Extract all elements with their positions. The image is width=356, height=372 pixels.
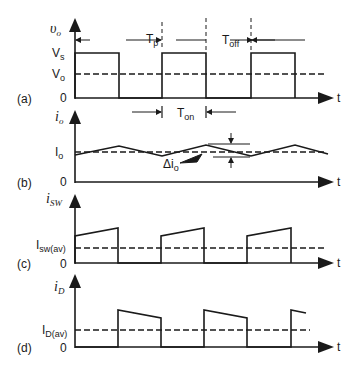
panel-d-zero-label: 0: [60, 342, 67, 354]
panel-d-tag: (d): [17, 342, 32, 354]
panel-b-axes: [69, 110, 334, 188]
panel-b-y-label: io: [55, 110, 63, 124]
panel-c-isw-av-label: Isw(av): [36, 239, 66, 251]
panel-b-tag: (b): [17, 177, 32, 189]
toff-label: Toff: [222, 34, 239, 46]
ripple-label: Δio: [163, 158, 179, 170]
panel-d-axes: [69, 274, 334, 353]
ton-label: Ton: [177, 107, 194, 119]
panel-d-id-av-label: ID(av): [42, 324, 67, 336]
panel-c-zero-label: 0: [60, 258, 67, 270]
panel-b-io-label: Io: [55, 146, 63, 158]
panel-b-zero-label: 0: [60, 176, 67, 188]
panel-a-vs-label: Vs: [52, 47, 65, 59]
panel-c-y-label: iSW: [46, 192, 62, 206]
panel-c-axes: [69, 194, 334, 269]
panel-a-tag: (a): [17, 93, 32, 105]
panel-a-zero-label: 0: [60, 92, 67, 104]
panel-a-voltage-pulses: [75, 53, 295, 98]
panel-c-switch-current: [75, 228, 291, 263]
panel-b-x-label: t: [337, 176, 340, 188]
panel-d-diode-current: [75, 310, 306, 347]
panel-a-y-label: υo: [50, 22, 61, 36]
panel-a-vo-label: Vo: [52, 68, 65, 80]
panel-a-x-label: t: [337, 92, 340, 104]
panel-c-x-label: t: [337, 257, 340, 269]
panel-d-y-label: iD: [54, 280, 64, 294]
tp-label: Tp: [146, 33, 158, 45]
panel-d-x-label: t: [337, 341, 340, 353]
panel-c-tag: (c): [17, 258, 31, 270]
